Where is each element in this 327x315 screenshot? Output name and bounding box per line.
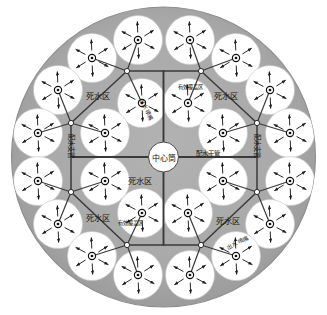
- water-distribution-diagram: 中心筒配水干管配水支管配水支管死水区死水区死水区死水区死水区有效覆盖区有效覆盖区…: [0, 0, 327, 315]
- dead-zone-label-tl: 死水区: [86, 91, 110, 101]
- nozzle-center-dot: [187, 212, 190, 215]
- center-cylinder-label: 中心筒: [152, 153, 176, 163]
- nozzle-center-dot: [137, 39, 140, 42]
- nozzle-center-dot: [37, 180, 40, 183]
- pipe-junction-node: [124, 242, 129, 247]
- pipe-junction-node: [124, 68, 129, 73]
- nozzle-center-dot: [189, 274, 192, 277]
- pipe-junction-node: [68, 120, 73, 125]
- nozzle-center-dot: [57, 89, 60, 92]
- pipe-junction-node: [68, 189, 73, 194]
- diagram-canvas: 中心筒配水干管配水支管配水支管死水区死水区死水区死水区死水区有效覆盖区有效覆盖区…: [0, 0, 327, 315]
- nozzle-center-dot: [222, 180, 225, 183]
- nozzle-center-dot: [289, 132, 292, 135]
- branch-pipe-label-left: 配水支管: [67, 134, 76, 158]
- pipe-junction-node: [198, 68, 203, 73]
- nozzle-center-dot: [91, 255, 94, 258]
- nozzle-center-dot: [137, 274, 140, 277]
- main-pipe-label-right: 配水干管: [196, 149, 220, 158]
- nozzle-center-dot: [141, 212, 144, 215]
- dead-zone-label-bl: 死水区: [86, 213, 110, 223]
- nozzle-center-dot: [235, 255, 238, 258]
- nozzle-center-dot: [104, 132, 107, 135]
- pipe-junction-node: [254, 120, 259, 125]
- nozzle-center-dot: [269, 223, 272, 226]
- nozzle-center-dot: [57, 223, 60, 226]
- nozzle-center-dot: [189, 39, 192, 42]
- nozzle-center-dot: [37, 132, 40, 135]
- branch-pipe-label-right: 配水支管: [253, 134, 262, 158]
- dead-zone-label-tr: 死水区: [214, 91, 238, 101]
- dead-zone-label-br: 死水区: [216, 216, 240, 226]
- pipe-junction-node: [254, 189, 259, 194]
- nozzle-center-dot: [289, 180, 292, 183]
- nozzle-center-dot: [269, 89, 272, 92]
- nozzle-center-dot: [222, 132, 225, 135]
- nozzle-center-dot: [187, 102, 190, 105]
- pipe-junction-node: [198, 242, 203, 247]
- nozzle-center-dot: [91, 57, 94, 60]
- coverage-zone-label-bot: 有效覆盖区: [118, 219, 144, 227]
- nozzle-center-dot: [235, 57, 238, 60]
- coverage-zone-label-top: 有效覆盖区: [178, 83, 204, 91]
- dead-zone-label-mid: 死水区: [128, 176, 152, 186]
- nozzle-center-dot: [104, 180, 107, 183]
